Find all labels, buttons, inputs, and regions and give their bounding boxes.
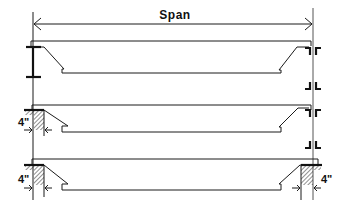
masonry-wall-right-icon [301,165,321,185]
beam-3-top [32,159,318,165]
clip-angle-top-left-icon [305,48,310,55]
clip-angle-bottom-left-icon [305,141,310,148]
beam-1-top [31,41,311,47]
clip-angle-bottom-left-icon [305,82,310,89]
beam-3-left-end [32,165,279,190]
beam-2-right-end [279,108,309,132]
span-label: Span [159,8,190,22]
clip-angle-top-left-icon [305,110,310,117]
clip-angle-top-right-icon [316,110,321,117]
bearing-dimension-label: 4" [321,173,332,185]
span-dimension: Span [34,8,312,30]
beam-2-top [32,105,311,110]
beam-1-right-end [279,47,309,73]
beam-2-left-end [32,110,279,132]
bearing-dimension-label: 4" [18,116,29,128]
beam-row-3: 4" 4" [18,159,332,200]
span-diagram: Span 4" [0,0,349,207]
beam-1-left-end [31,47,279,73]
bearing-dimension-label: 4" [18,173,29,185]
clip-angle-top-right-icon [316,48,321,55]
beam-row-2: 4" [18,105,321,148]
clip-angle-bottom-right-icon [316,141,321,148]
clip-angle-bottom-right-icon [316,82,321,89]
diagram-canvas: Span 4" [0,0,349,207]
beam-row-1 [26,41,321,89]
